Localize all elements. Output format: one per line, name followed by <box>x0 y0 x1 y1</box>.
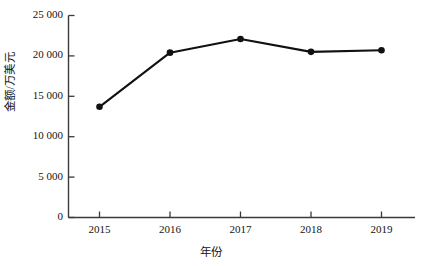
x-tick-label-2018: 2018 <box>281 223 341 235</box>
x-tick-label-2017: 2017 <box>211 223 271 235</box>
x-axis-tick-labels: 2015 2016 2017 2018 2019 <box>0 0 422 266</box>
x-tick-label-2016: 2016 <box>140 223 200 235</box>
y-axis-title: 金额/万美元 <box>4 39 16 125</box>
line-chart: 0 5 000 10 000 15 000 20 000 25 000 2015… <box>0 0 422 266</box>
x-tick-label-2015: 2015 <box>70 223 130 235</box>
x-tick-label-2019: 2019 <box>352 223 412 235</box>
x-axis-title: 年份 <box>0 243 422 259</box>
